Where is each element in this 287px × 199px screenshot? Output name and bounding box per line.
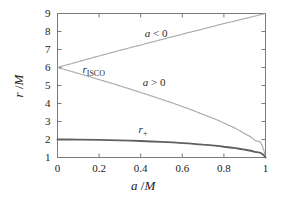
annotation-r-plus-sub: + [143, 129, 148, 138]
y-axis-label-unit: M [11, 75, 26, 86]
y-tick-label: 7 [37, 43, 51, 55]
curve-r-plus [58, 140, 266, 158]
y-tick-label: 6 [37, 61, 51, 73]
annotation-retrograde: a < 0 [145, 27, 168, 39]
y-axis-label-sep: / [11, 85, 26, 92]
annotation-r-plus: r+ [139, 123, 148, 138]
x-axis-label-unit: M [144, 178, 155, 193]
y-axis-label: r /M [11, 58, 27, 114]
y-axis-label-var: r [11, 92, 26, 97]
x-tick-label: 0.2 [86, 162, 112, 174]
y-tick-label: 2 [37, 133, 51, 145]
y-tick-label: 9 [37, 7, 51, 19]
annotation-r-isco-sub: ISCO [87, 69, 105, 78]
x-tick-label: 0.4 [128, 162, 154, 174]
chart-figure: 123456789 00.20.40.60.81 r /M a /M a < 0… [0, 0, 287, 199]
y-tick-label: 3 [37, 115, 51, 127]
x-tick-label: 0.8 [211, 162, 237, 174]
x-tick-label: 0.6 [169, 162, 195, 174]
x-tick-label: 0 [45, 162, 71, 174]
annotation-r-isco: rISCO [82, 63, 105, 78]
annotation-prograde-rel: > 0 [148, 76, 165, 88]
x-axis-label: a /M [131, 178, 155, 194]
annotation-prograde: a > 0 [143, 76, 166, 88]
y-tick-label: 5 [37, 79, 51, 91]
curve-r-isco-retrograde [58, 14, 266, 68]
annotation-retrograde-rel: < 0 [150, 27, 167, 39]
x-tick-label: 1 [253, 162, 279, 174]
y-tick-label: 4 [37, 97, 51, 109]
y-tick-label: 8 [37, 25, 51, 37]
